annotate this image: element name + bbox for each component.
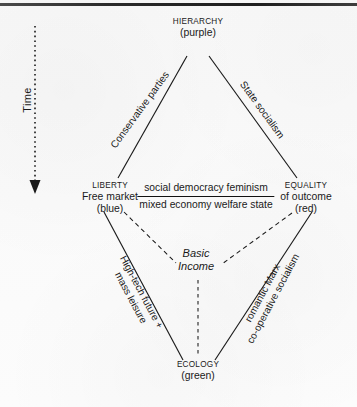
vertex-hierarchy: HIERARCHY (purple)	[173, 17, 223, 39]
vertex-equality-color: (red)	[280, 203, 331, 215]
fraction-numerator: social democracy feminism	[137, 182, 274, 195]
vertex-ecology-name: ECOLOGY	[177, 360, 219, 370]
fraction-bar	[137, 196, 274, 198]
vertex-ecology: ECOLOGY (green)	[177, 360, 219, 382]
center-fraction: social democracy feminism mixed economy …	[137, 182, 274, 211]
vertex-hierarchy-color: (purple)	[173, 27, 223, 39]
edge-hierarchy-equality	[209, 56, 297, 178]
basic-income-label: Basic Income	[178, 247, 214, 273]
time-axis-arrowhead	[30, 180, 41, 194]
vertex-liberty-subtitle: Free market	[82, 191, 138, 203]
vertex-equality: EQUALITY of outcome (red)	[280, 181, 331, 215]
vertex-hierarchy-name: HIERARCHY	[173, 17, 223, 27]
basic-income-line-1: Basic	[178, 247, 214, 260]
vertex-ecology-color: (green)	[177, 370, 219, 382]
vertex-equality-subtitle: of outcome	[280, 191, 331, 203]
vertex-liberty-name: LIBERTY	[82, 181, 138, 191]
basic-income-line-2: Income	[178, 260, 214, 273]
vertex-equality-name: EQUALITY	[280, 181, 331, 191]
connector-liberty-basicincome	[124, 212, 176, 263]
fraction-denominator: mixed economy welfare state	[137, 198, 274, 211]
time-axis-label: Time	[21, 87, 34, 112]
vertex-liberty: LIBERTY Free market (blue)	[82, 181, 138, 215]
vertex-liberty-color: (blue)	[82, 203, 138, 215]
